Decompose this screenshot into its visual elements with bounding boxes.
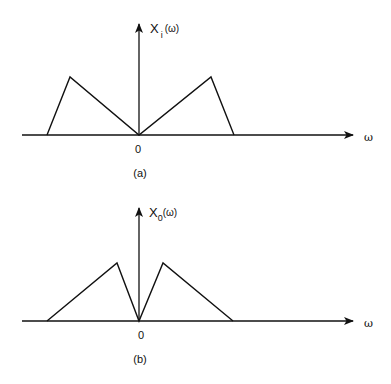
spectrum-curve-a (47, 77, 234, 135)
y-label-a: Xi(ω) (150, 21, 179, 40)
caption-a: (a) (133, 167, 146, 179)
spectrum-curve-b (47, 263, 233, 321)
caption-b: (b) (133, 353, 146, 365)
x-label-a: ω (364, 131, 373, 144)
x-label-b: ω (364, 317, 373, 330)
figure-a: Xi(ω) ω 0 (a) (22, 21, 373, 179)
origin-label-a: 0 (135, 143, 141, 155)
origin-label-b: 0 (138, 329, 144, 341)
spectrum-diagram: Xi(ω) ω 0 (a) X0(ω) ω 0 (b) (0, 0, 391, 384)
y-label-b: X0(ω) (149, 205, 177, 223)
figure-b: X0(ω) ω 0 (b) (22, 205, 373, 365)
